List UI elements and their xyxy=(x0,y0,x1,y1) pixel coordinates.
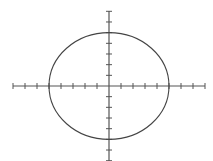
circle-graph xyxy=(0,0,213,161)
plot-canvas xyxy=(0,0,213,161)
